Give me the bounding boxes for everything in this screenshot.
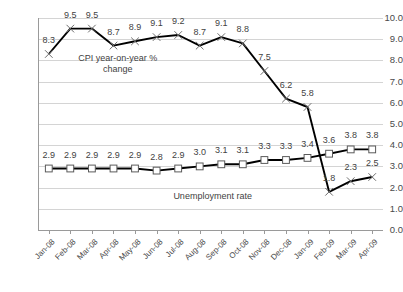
x-axis-tick bbox=[286, 230, 287, 234]
data-point-label: 1.8 bbox=[316, 174, 342, 183]
x-axis-tick bbox=[135, 230, 136, 234]
series-marker bbox=[304, 155, 311, 162]
series-marker bbox=[368, 173, 376, 181]
gridline bbox=[38, 103, 383, 104]
series-marker bbox=[45, 50, 53, 58]
data-point-label: 5.8 bbox=[295, 89, 321, 98]
gridline bbox=[38, 166, 383, 167]
series-annotation: CPI year-on-year % change bbox=[63, 53, 173, 75]
series-marker bbox=[196, 42, 204, 50]
y-axis-tick-label: 6.0 bbox=[369, 98, 403, 108]
y-axis-tick-label: 0.0 bbox=[369, 225, 403, 235]
series-marker bbox=[110, 42, 118, 50]
series-marker bbox=[347, 146, 354, 153]
data-point-label: 3.8 bbox=[359, 131, 385, 140]
x-axis-tick bbox=[200, 230, 201, 234]
data-point-label: 2.5 bbox=[359, 159, 385, 168]
y-axis-tick-label: 2.0 bbox=[369, 183, 403, 193]
series-annotation: Unemployment rate bbox=[158, 191, 268, 202]
series-marker bbox=[304, 103, 312, 111]
series-marker bbox=[88, 25, 96, 33]
y-axis-tick-label: 9.0 bbox=[369, 34, 403, 44]
series-marker bbox=[153, 167, 160, 174]
x-axis-tick bbox=[351, 230, 352, 234]
y-axis-tick-label: 7.0 bbox=[369, 77, 403, 87]
x-axis-tick bbox=[308, 230, 309, 234]
x-axis-tick bbox=[157, 230, 158, 234]
x-axis-tick bbox=[92, 230, 93, 234]
series-marker bbox=[282, 95, 290, 103]
data-point-label: 8.8 bbox=[230, 25, 256, 34]
series-marker bbox=[283, 157, 290, 164]
series-marker bbox=[261, 157, 268, 164]
x-axis-tick bbox=[113, 230, 114, 234]
x-axis-tick bbox=[49, 230, 50, 234]
y-axis-tick-label: 10.0 bbox=[369, 13, 403, 23]
series-marker bbox=[174, 31, 182, 39]
data-point-label: 8.3 bbox=[36, 36, 62, 45]
x-axis-tick bbox=[70, 230, 71, 234]
gridline bbox=[38, 124, 383, 125]
series-marker bbox=[261, 67, 269, 75]
x-axis-tick bbox=[178, 230, 179, 234]
x-axis-tick bbox=[243, 230, 244, 234]
y-axis-tick-label: 8.0 bbox=[369, 55, 403, 65]
data-point-label: 9.5 bbox=[79, 11, 105, 20]
y-axis-line bbox=[38, 18, 39, 230]
data-point-label: 9.2 bbox=[165, 17, 191, 26]
data-point-label: 8.7 bbox=[187, 28, 213, 37]
y-axis-tick-label: 1.0 bbox=[369, 204, 403, 214]
gridline bbox=[38, 82, 383, 83]
x-axis-tick bbox=[221, 230, 222, 234]
y-axis-tick-label: 4.0 bbox=[369, 140, 403, 150]
line-chart: 0.01.02.03.04.05.06.07.08.09.010.0 Jan-0… bbox=[0, 0, 403, 292]
series-marker bbox=[326, 150, 333, 157]
data-point-label: 7.5 bbox=[251, 53, 277, 62]
x-axis-tick bbox=[264, 230, 265, 234]
series-marker bbox=[325, 188, 333, 196]
gridline bbox=[38, 39, 383, 40]
gridline bbox=[38, 188, 383, 189]
x-axis-tick bbox=[329, 230, 330, 234]
x-axis-tick bbox=[372, 230, 373, 234]
gridline bbox=[38, 209, 383, 210]
series-marker bbox=[347, 177, 355, 185]
y-axis-tick-label: 5.0 bbox=[369, 119, 403, 129]
series-marker bbox=[67, 25, 75, 33]
series-marker bbox=[239, 40, 247, 48]
x-axis-line bbox=[38, 230, 383, 231]
